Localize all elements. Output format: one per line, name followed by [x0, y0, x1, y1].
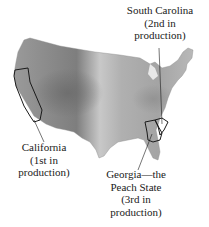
south-carolina-label: South Carolina (2nd in production) — [118, 4, 202, 42]
georgia-label: Georgia—the Peach State (3rd in producti… — [97, 168, 175, 218]
california-leader-line — [34, 120, 44, 142]
california-label-line: (1st in — [10, 154, 78, 167]
south-carolina-label-line: South Carolina — [118, 4, 202, 17]
georgia-label-line: production) — [97, 206, 175, 219]
south-carolina-label-line: production) — [118, 29, 202, 42]
california-label-line: production) — [10, 166, 78, 179]
georgia-label-line: (3rd in — [97, 193, 175, 206]
georgia-label-line: Peach State — [97, 181, 175, 194]
us-map-figure: South Carolina (2nd in production) Calif… — [0, 0, 209, 227]
georgia-label-line: Georgia—the — [97, 168, 175, 181]
california-label: California (1st in production) — [10, 141, 78, 179]
south-carolina-label-line: (2nd in — [118, 17, 202, 30]
california-label-line: California — [10, 141, 78, 154]
